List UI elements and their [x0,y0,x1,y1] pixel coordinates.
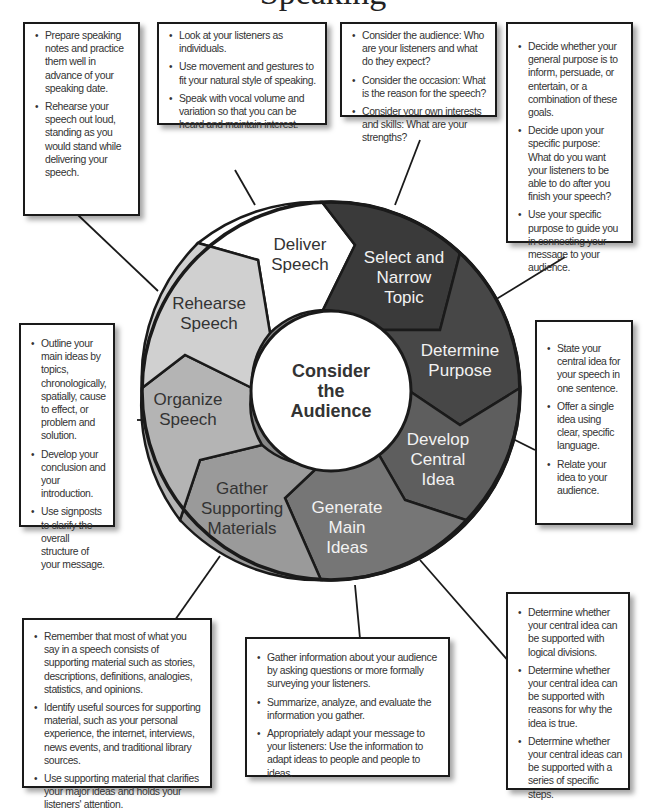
box-audience-tips: Gather information about your audience b… [245,637,450,777]
tip-item: Decide whether your general purpose is t… [528,40,625,119]
tip-item: Determine whether your central ideas can… [528,735,622,801]
box-purpose-tips: Decide whether your general purpose is t… [506,22,633,243]
tip-item: Offer a single idea using clear, specifi… [557,400,625,453]
tip-item: Consider the occasion: What is the reaso… [362,74,489,100]
tip-item: State your central idea for your speech … [557,342,625,395]
tip-item: Appropriately adapt your message to your… [267,727,442,780]
box-rehearse-tips: Prepare speaking notes and practice them… [23,22,140,216]
tip-item: Use signposts to clarify the overall str… [41,505,107,571]
box-supporting-tips: Remember that most of what you say in a … [22,618,212,788]
tip-item: Remember that most of what you say in a … [44,630,204,696]
tip-item: Look at your listeners as individuals. [179,29,319,55]
box-select-topic-tips: Consider the audience: Who are your list… [340,22,497,117]
step-develop-central-idea: DevelopCentralIdea [407,430,469,490]
tip-item: Use supporting material that clarifies y… [44,772,204,812]
tip-item: Prepare speaking notes and practice them… [45,29,132,95]
tip-item: Outline your main ideas by topics, chron… [41,337,107,443]
tip-item: Determine whether your central idea can … [528,664,622,730]
tip-item: Use your specific purpose to guide you i… [528,208,625,274]
tip-item: Determine whether your central idea can … [528,606,622,659]
step-gather-supporting-materials: GatherSupportingMaterials [201,479,283,539]
connector-supporting [175,556,220,620]
step-rehearse-speech: RehearseSpeech [172,294,246,334]
step-deliver-speech: DeliverSpeech [271,235,329,275]
tip-item: Summarize, analyze, and evaluate the inf… [267,696,442,722]
box-central-idea-tips: State your central idea for your speech … [535,320,633,525]
tip-item: Use movement and gestures to fit your na… [179,60,319,86]
box-deliver-tips: Look at your listeners as individuals. U… [157,22,327,125]
tip-item: Gather information about your audience b… [267,651,442,691]
connector-deliver [235,170,255,205]
tip-item: Identify useful sources for supporting m… [44,701,204,767]
tip-item: Consider your own interests and skills: … [362,105,489,145]
tip-item: Consider the audience: Who are your list… [362,29,489,69]
tip-item: Rehearse your speech out loud, standing … [45,100,132,179]
box-organize-tips: Outline your main ideas by topics, chron… [19,323,115,527]
center-consider-audience: ConsidertheAudience [290,361,371,421]
tip-item: Relate your idea to your audience. [557,458,625,498]
step-generate-main-ideas: GenerateMainIdeas [312,498,383,558]
step-organize-speech: OrganizeSpeech [154,390,223,430]
step-select-topic: Select andNarrowTopic [364,248,444,308]
tip-item: Decide upon your specific purpose: What … [528,124,625,203]
box-main-ideas-tips: Determine whether your central idea can … [506,592,630,790]
step-determine-purpose: DeterminePurpose [421,341,499,381]
tip-item: Speak with vocal volume and variation so… [179,92,319,132]
tip-item: Develop your conclusion and your introdu… [41,448,107,501]
connector-select-topic [395,140,420,205]
connector-rehearse [78,215,158,291]
